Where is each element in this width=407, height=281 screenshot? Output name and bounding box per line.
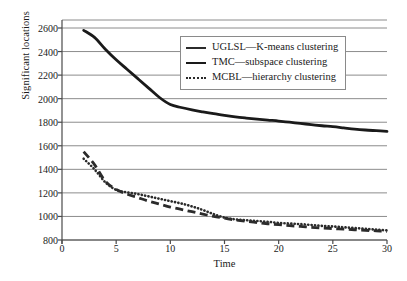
legend-box: UGLSL—K-means clustering TMC—subspace cl… (180, 36, 346, 90)
legend-item-label: MCBL—hierarchy clustering (212, 72, 336, 83)
legend-item-tmc[interactable]: TMC—subspace clustering (186, 55, 338, 70)
dashed-line-key-icon (186, 43, 206, 53)
chart-container: Significant locations Time 8001000120014… (0, 0, 407, 281)
legend-item-label: TMC—subspace clustering (212, 57, 327, 68)
legend-item-mcbl[interactable]: MCBL—hierarchy clustering (186, 70, 338, 85)
legend-item-uglsl[interactable]: UGLSL—K-means clustering (186, 40, 338, 55)
dotted-line-key-icon (186, 73, 206, 83)
legend-item-label: UGLSL—K-means clustering (212, 42, 338, 53)
solid-line-key-icon (186, 58, 206, 68)
